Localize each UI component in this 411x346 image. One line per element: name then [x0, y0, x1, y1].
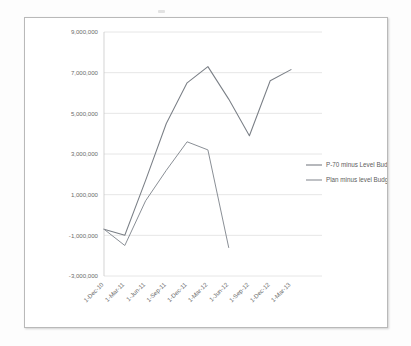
series-line-1: [104, 67, 291, 236]
y-axis-tick-label: 3,000,000: [71, 150, 99, 157]
screenshot-canvas: 9,000,0007,000,0005,000,0003,000,0001,00…: [0, 0, 411, 346]
x-axis-tick-label: 1-Dec-10: [82, 280, 105, 303]
x-axis-tick-label: 1-Mar-11: [103, 280, 126, 303]
y-axis-tick-label: 7,000,000: [71, 69, 99, 76]
x-axis-tick-label: 1-Mar-13: [269, 280, 292, 303]
x-axis-tick-label: 1-Dec-12: [248, 280, 271, 303]
x-axis-tick-label: 1-Dec-11: [165, 280, 188, 303]
legend-label-2: Plan minus level Budget: [326, 176, 387, 184]
y-axis-tick-label: -1,000,000: [69, 232, 99, 239]
x-axis-tick-label: 1-Jun-12: [207, 280, 229, 302]
y-axis-tick-label: 5,000,000: [71, 110, 99, 117]
line-chart: 9,000,0007,000,0005,000,0003,000,0001,00…: [25, 18, 387, 327]
x-axis-tick-label: 1-Sep-12: [227, 280, 250, 303]
y-axis-tick-label: 9,000,000: [71, 28, 99, 35]
legend-label-1: P-70 minus Level Budget: [326, 161, 387, 169]
x-axis-tick-label: 1-Mar-12: [186, 280, 209, 303]
chart-plot-area: 9,000,0007,000,0005,000,0003,000,0001,00…: [25, 18, 387, 327]
x-axis-tick-label: 1-Sep-11: [145, 280, 168, 303]
x-axis-tick-label: 1-Jun-11: [125, 280, 147, 302]
y-axis-tick-label: -3,000,000: [69, 272, 99, 279]
chart-frame: 9,000,0007,000,0005,000,0003,000,0001,00…: [24, 17, 388, 328]
scan-artifact-speck: [158, 10, 165, 13]
y-axis-tick-label: 1,000,000: [71, 191, 99, 198]
